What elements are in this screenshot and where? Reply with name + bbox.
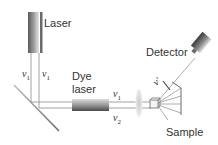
dye-laser-label-line2: laser (72, 84, 96, 95)
nu1-laser-right-label: ν1 (42, 69, 50, 82)
scatter-rays (158, 88, 181, 120)
nu2-horizontal-label: ν2 (113, 113, 121, 126)
lens (136, 89, 143, 117)
nu1-horizontal-label: ν1 (113, 89, 121, 102)
detector-beam (158, 58, 195, 101)
dye-laser-label-line1: Dye (72, 71, 92, 82)
laser (28, 12, 43, 53)
nu1-laser-left-label: ν1 (22, 69, 30, 82)
dye-laser (72, 99, 109, 111)
detector (188, 32, 211, 57)
diagram-canvas (0, 0, 218, 145)
laser-beams (31, 53, 39, 108)
sample-label: Sample (166, 127, 203, 138)
slit (163, 81, 170, 90)
detector-label: Detector (146, 47, 188, 58)
laser-label: Laser (44, 18, 72, 29)
